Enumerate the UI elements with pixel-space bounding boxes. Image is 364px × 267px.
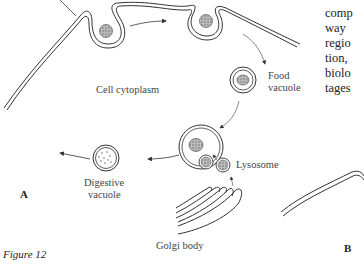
body-text-column: comp way regio tion, biolo tages [325, 6, 353, 96]
body-text-line: tion, [325, 51, 353, 66]
body-text-line: way [325, 21, 353, 36]
arrow-lyso-2 [231, 177, 233, 186]
arrow-2 [243, 34, 265, 64]
body-text-line: comp [325, 6, 353, 21]
panel-b-membrane [281, 171, 364, 216]
body-text-line: biolo [325, 66, 353, 81]
figure-caption: Figure 12 [3, 248, 46, 260]
arrow-1 [130, 21, 166, 26]
pointer-line [60, 0, 76, 16]
arrow-5 [60, 153, 90, 159]
panel-label-b: B [344, 242, 351, 254]
label-lysosome: Lysosome [236, 159, 279, 171]
label-cell-cytoplasm: Cell cytoplasm [96, 84, 159, 96]
fusing-lysosome [199, 155, 213, 169]
label-food-vacuole-1: Food [268, 70, 290, 82]
panel-label-a: A [20, 188, 28, 200]
food-particle [200, 15, 213, 28]
body-text-line: tages [325, 81, 353, 96]
arrow-3 [220, 101, 239, 128]
food-particle [100, 25, 113, 38]
body-text-line: regio [325, 36, 353, 51]
lysosome [216, 158, 230, 172]
golgi-body [176, 187, 242, 234]
label-digestive-vacuole-2: vacuole [88, 189, 121, 201]
arrow-4 [148, 155, 179, 159]
food-vacuole [230, 67, 256, 93]
label-food-vacuole-2: vacuole [268, 82, 301, 94]
endocytosis-diagram [0, 0, 364, 267]
label-digestive-vacuole-1: Digestive [84, 177, 124, 189]
label-golgi-body: Golgi body [156, 240, 204, 252]
digestive-vacuole [93, 145, 119, 171]
